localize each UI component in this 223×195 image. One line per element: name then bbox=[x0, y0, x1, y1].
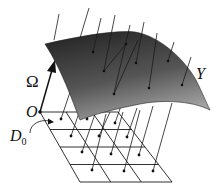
origin-label: O bbox=[26, 104, 38, 120]
domain-label: D0 bbox=[10, 128, 27, 147]
omega-arrow bbox=[40, 60, 56, 112]
origin-point bbox=[38, 110, 42, 114]
domain-label-main: D bbox=[10, 127, 22, 144]
surface-label: Y bbox=[196, 66, 205, 82]
diagram-canvas bbox=[0, 0, 223, 195]
omega-label: Ω bbox=[26, 73, 39, 90]
domain-label-subscript: 0 bbox=[22, 136, 27, 147]
